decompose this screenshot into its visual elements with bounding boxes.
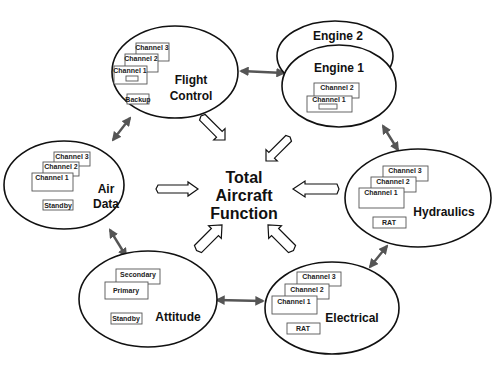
channel-label-secondary: Secondary bbox=[120, 271, 156, 279]
system-label-line-1: Air bbox=[98, 182, 115, 196]
center-label-line-2: Aircraft bbox=[216, 187, 274, 204]
channel-label-2: Channel 2 bbox=[320, 84, 354, 91]
system-label: Hydraulics bbox=[413, 205, 475, 219]
channel-label-2: Channel 2 bbox=[44, 163, 78, 170]
channel-label-3: Channel 3 bbox=[302, 273, 336, 280]
channel-label-2: Channel 2 bbox=[376, 178, 410, 185]
backup-label: Standby bbox=[44, 202, 72, 210]
system-electrical: Channel 3 Channel 2 Channel 1 RAT Electr… bbox=[265, 262, 399, 354]
hollow-arrow-electrical bbox=[262, 219, 300, 257]
system-attitude: Secondary Primary Standby Attitude bbox=[79, 251, 217, 347]
hollow-arrow-engines bbox=[260, 131, 295, 166]
channel-label-3: Channel 3 bbox=[135, 44, 169, 51]
link-flightcontrol-engines bbox=[241, 71, 284, 73]
sub-box-icon bbox=[126, 76, 138, 81]
channel-label-2: Channel 2 bbox=[124, 55, 158, 62]
backup-label: RAT bbox=[382, 219, 397, 226]
channel-label-1: Channel 1 bbox=[35, 174, 69, 181]
channel-label-primary: Primary bbox=[113, 287, 139, 295]
hollow-arrow-flightcontrol bbox=[195, 110, 230, 145]
channel-label-1: Channel 1 bbox=[277, 298, 311, 305]
center-label-line-1: Total bbox=[225, 169, 262, 186]
system-label: Electrical bbox=[325, 311, 378, 325]
sub-box-icon bbox=[319, 104, 337, 109]
system-label-line-2: Data bbox=[93, 197, 119, 211]
channel-label-1: Channel 1 bbox=[113, 67, 147, 74]
channel-label-2: Channel 2 bbox=[290, 286, 324, 293]
system-label: Attitude bbox=[155, 310, 201, 324]
center-label: Total Aircraft Function bbox=[210, 169, 278, 222]
system-redundancy-diagram: Total Aircraft Function Channel 3 Channe… bbox=[0, 0, 496, 367]
channel-label-1: Channel 1 bbox=[364, 189, 398, 196]
link-airdata-flightcontrol bbox=[113, 118, 130, 140]
system-hydraulics: Channel 3 Channel 2 Channel 1 RAT Hydrau… bbox=[345, 149, 491, 247]
backup-label: Standby bbox=[112, 315, 140, 323]
engine-2-label: Engine 2 bbox=[313, 29, 363, 43]
system-label-line-2: Control bbox=[170, 89, 213, 103]
system-engines: Engine 2 Engine 1 Channel 2 Channel 1 bbox=[277, 21, 396, 127]
channel-label-3: Channel 3 bbox=[388, 167, 422, 174]
system-label-line-1: Flight bbox=[175, 73, 208, 87]
center-label-line-3: Function bbox=[210, 205, 278, 222]
link-engines-hydraulics bbox=[383, 126, 398, 150]
channel-label-3: Channel 3 bbox=[55, 153, 89, 160]
channel-label-1: Channel 1 bbox=[312, 96, 346, 103]
system-flight-control: Channel 3 Channel 2 Channel 1 Backup Fli… bbox=[112, 26, 238, 118]
system-air-data: Channel 3 Channel 2 Channel 1 Standby Ai… bbox=[4, 141, 124, 229]
link-electrical-attitude bbox=[217, 300, 263, 301]
hollow-arrow-attitude bbox=[190, 219, 228, 257]
hollow-arrow-hydraulics bbox=[293, 181, 339, 197]
link-attitude-airdata bbox=[110, 230, 126, 256]
backup-label: Backup bbox=[125, 96, 150, 104]
hollow-arrow-airdata bbox=[156, 182, 198, 196]
engine-1-label: Engine 1 bbox=[314, 61, 364, 75]
backup-label: RAT bbox=[296, 325, 311, 332]
link-hydraulics-electrical bbox=[370, 246, 387, 267]
